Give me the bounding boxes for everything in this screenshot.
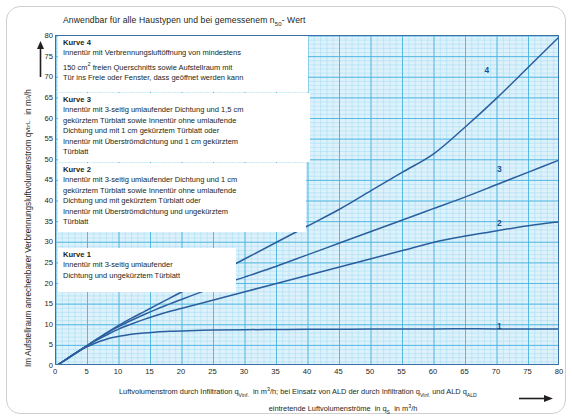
- legend-block-line: Innentür mit 3-seitig umlaufender Dichtu…: [63, 175, 302, 185]
- curve-label-1: 1: [497, 321, 502, 331]
- x-tick-label: 65: [460, 367, 468, 376]
- x-axis-label-line2: eintretende Luftvolumenströme in qS in m…: [63, 401, 563, 418]
- legend-block-line: Innentür mit Verbrennungsluftöffnung von…: [63, 48, 304, 58]
- curve-label-4: 4: [484, 65, 489, 75]
- curve-label-3: 3: [497, 164, 502, 174]
- y-tick-label: 65: [37, 92, 53, 101]
- legend-block-line: Dichtung und mit 1 cm gekürztem Türblatt…: [63, 126, 306, 136]
- x-tick-label: 40: [303, 367, 311, 376]
- x-tick-label: 20: [177, 367, 185, 376]
- legend-block-title: Kurve 4: [63, 38, 304, 48]
- legend-block-line: gekürztem Türblatt sowie Innentür ohne u…: [63, 116, 306, 126]
- x-tick-label: 55: [397, 367, 405, 376]
- y-tick-label: 75: [37, 51, 53, 60]
- x-tick-label: 25: [208, 367, 216, 376]
- y-tick-label: 5: [37, 340, 53, 349]
- y-tick-label: 55: [37, 134, 53, 143]
- x-tick-label: 80: [555, 367, 563, 376]
- legend-block-kurve-2: Kurve 2Innentür mit 3-seitig umlaufender…: [58, 163, 306, 232]
- x-tick-label: 15: [145, 367, 153, 376]
- legend-block-line: Türblatt: [63, 147, 306, 157]
- legend-block-title: Kurve 1: [63, 250, 232, 260]
- chart-title-main: Anwendbar für alle Haustypen und bei gem…: [63, 15, 275, 25]
- x-tick-label: 5: [84, 367, 88, 376]
- x-axis-label-line1: Luftvolumenstrom durch Infiltration qVin…: [63, 384, 563, 401]
- x-tick-label: 0: [53, 367, 57, 376]
- legend-block-line: Türblatt: [63, 217, 302, 227]
- y-axis-ticks: 05101520253035404550556065707580: [33, 35, 53, 365]
- legend-block-kurve-4: Kurve 4Innentür mit Verbrennungsluftöffn…: [58, 36, 308, 92]
- x-tick-label: 50: [366, 367, 374, 376]
- x-tick-label: 60: [429, 367, 437, 376]
- y-tick-label: 25: [37, 257, 53, 266]
- chart-card: Anwendbar für alle Haustypen und bei gem…: [6, 6, 566, 414]
- legend-block-line: Innentür mit 3-seitig umlaufender Dichtu…: [63, 105, 306, 115]
- y-tick-label: 80: [37, 31, 53, 40]
- chart-title-tail: - Wert: [282, 15, 306, 25]
- y-tick-label: 0: [37, 361, 53, 370]
- plot-area: Kurve 4Innentür mit Verbrennungsluftöffn…: [55, 35, 559, 365]
- legend-block-title: Kurve 2: [63, 165, 302, 175]
- chart-page: Anwendbar für alle Haustypen und bei gem…: [0, 0, 572, 420]
- legend-block-line: Tür ins Freie oder Fenster, dass geöffne…: [63, 73, 304, 83]
- legend-block-line: Dichtung und ungekürztem Türblatt: [63, 271, 232, 281]
- y-tick-label: 50: [37, 154, 53, 163]
- x-tick-label: 10: [114, 367, 122, 376]
- x-axis-arrow-icon: [519, 388, 553, 395]
- legend-block-kurve-1: Kurve 1Innentür mit 3-seitig umlaufender…: [58, 248, 236, 292]
- legend-block-kurve-3: Kurve 3Innentür mit 3-seitig umlaufender…: [58, 93, 310, 162]
- x-tick-label: 70: [492, 367, 500, 376]
- legend-block-line: Innentür mit Überströmdichtung und ungek…: [63, 207, 302, 217]
- chart-title: Anwendbar für alle Haustypen und bei gem…: [63, 15, 305, 27]
- y-tick-label: 30: [37, 237, 53, 246]
- y-tick-label: 15: [37, 299, 53, 308]
- x-tick-label: 45: [334, 367, 342, 376]
- x-tick-label: 35: [271, 367, 279, 376]
- x-tick-label: 75: [523, 367, 531, 376]
- y-tick-label: 35: [37, 216, 53, 225]
- y-tick-label: 60: [37, 113, 53, 122]
- y-tick-label: 70: [37, 72, 53, 81]
- x-axis-ticks: 05101520253035404550556065707580: [55, 367, 559, 381]
- legend-block-title: Kurve 3: [63, 95, 306, 105]
- y-tick-label: 45: [37, 175, 53, 184]
- x-tick-label: 30: [240, 367, 248, 376]
- legend-block-line: 150 cm2 freien Querschnitts sowie Aufste…: [63, 59, 304, 73]
- y-tick-label: 10: [37, 319, 53, 328]
- chart-title-subscript: 50: [275, 21, 282, 27]
- legend-block-line: Innentür mit 3-seitig umlaufender: [63, 260, 232, 270]
- x-axis-label: Luftvolumenstrom durch Infiltration qVin…: [63, 384, 563, 418]
- y-tick-label: 40: [37, 196, 53, 205]
- legend-block-line: Innentür mit Überströmdichtung und 1 cm …: [63, 137, 306, 147]
- legend-block-line: Dichtung und mit gekürztem Türblatt oder: [63, 196, 302, 206]
- curve-label-2: 2: [497, 218, 502, 228]
- legend-block-line: gekürztem Türblatt sowie Innentür ohne u…: [63, 186, 302, 196]
- y-tick-label: 20: [37, 278, 53, 287]
